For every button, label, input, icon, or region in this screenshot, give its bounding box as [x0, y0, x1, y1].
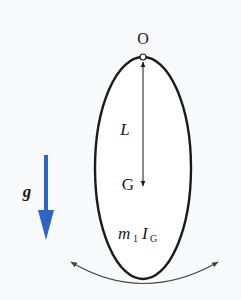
gravity-label: g	[22, 182, 32, 201]
pivot-circle-icon	[140, 54, 146, 60]
svg-text:G: G	[150, 233, 157, 244]
svg-text:m: m	[118, 224, 130, 243]
gravity-arrow-icon	[38, 155, 54, 240]
pivot-label: O	[137, 30, 149, 47]
physical-pendulum-diagram: O L G m 1 I G g	[0, 0, 241, 300]
center-of-mass-label: G	[122, 175, 134, 194]
svg-text:1: 1	[133, 233, 138, 244]
length-label: L	[119, 120, 129, 139]
